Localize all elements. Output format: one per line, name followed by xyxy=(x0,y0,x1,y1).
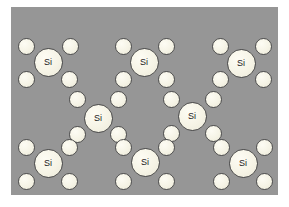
valence-electron-circle xyxy=(213,139,230,156)
valence-electron-circle xyxy=(212,71,229,88)
valence-electron-circle xyxy=(256,139,273,156)
si-atom-label: Si xyxy=(188,112,196,121)
si-top-left: Si xyxy=(34,48,63,77)
silicon-lattice-figure: SiSiSiSiSiSiSiSi xyxy=(0,0,289,207)
valence-electron-circle xyxy=(212,38,229,55)
si-top-right: Si xyxy=(227,49,256,78)
si-bottom-right: Si xyxy=(229,149,258,178)
valence-electron-circle xyxy=(18,173,35,190)
valence-electron-circle xyxy=(158,139,175,156)
valence-electron-circle xyxy=(158,71,175,88)
valence-electron-circle xyxy=(61,139,78,156)
si-top-middle: Si xyxy=(130,48,159,77)
valence-electron-circle xyxy=(62,38,79,55)
valence-electron-circle xyxy=(256,173,273,190)
valence-electron-circle xyxy=(110,91,127,108)
si-atom-label: Si xyxy=(239,159,247,168)
si-atom-label: Si xyxy=(94,114,102,123)
valence-electron-circle xyxy=(213,173,230,190)
valence-electron-circle xyxy=(158,173,175,190)
valence-electron-circle xyxy=(115,139,132,156)
valence-electron-circle xyxy=(18,71,35,88)
valence-electron-circle xyxy=(255,38,272,55)
valence-electron-circle xyxy=(69,91,86,108)
si-atom-label: Si xyxy=(44,159,52,168)
valence-electron-circle xyxy=(61,173,78,190)
valence-electron-circle xyxy=(18,139,35,156)
valence-electron-circle xyxy=(18,38,35,55)
valence-electron-circle xyxy=(115,71,132,88)
si-atom-label: Si xyxy=(140,58,148,67)
valence-electron-circle xyxy=(61,71,78,88)
valence-electron-circle xyxy=(205,91,222,108)
valence-electron-circle xyxy=(115,173,132,190)
si-atom-label: Si xyxy=(141,158,149,167)
valence-electron-circle xyxy=(158,38,175,55)
si-middle-left: Si xyxy=(84,104,113,133)
si-bottom-middle: Si xyxy=(131,148,160,177)
si-atom-label: Si xyxy=(44,58,52,67)
valence-electron-circle xyxy=(163,91,180,108)
valence-electron-circle xyxy=(255,71,272,88)
si-middle-right: Si xyxy=(178,102,207,131)
si-bottom-left: Si xyxy=(34,149,63,178)
valence-electron-circle xyxy=(115,38,132,55)
si-atom-label: Si xyxy=(237,59,245,68)
